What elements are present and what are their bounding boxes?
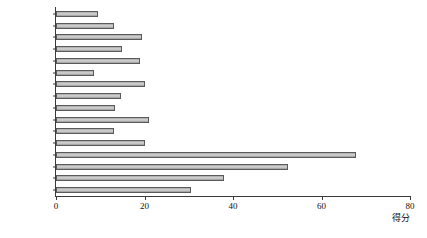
bar-row: 房山区 [56,102,410,114]
bar [56,93,121,99]
bar [56,117,149,123]
bar [56,46,122,52]
bar [56,164,288,170]
x-axis-tick-label: 20 [140,201,149,212]
bar-row: 西城区 [56,173,410,185]
x-axis-tick [410,196,411,200]
x-axis-tick [145,196,146,200]
bar [56,175,224,181]
x-axis-tick-label: 60 [317,201,326,212]
x-axis-tick [233,196,234,200]
x-axis-tick-label: 0 [54,201,59,212]
x-axis-title: 得分 [392,213,410,224]
x-axis-tick [322,196,323,200]
bar-row: 大兴区 [56,114,410,126]
bar-row: 朝阳区 [56,161,410,173]
bar-row: 丰台区 [56,137,410,149]
bar-row: 平谷区 [56,20,410,32]
bar [56,105,115,111]
bar-row: 通州区 [56,8,410,20]
x-axis-tick-label: 80 [406,201,415,212]
bar [56,128,114,134]
bar [56,58,140,64]
bar-row: 海淀区 [56,149,410,161]
bar-chart: 通州区平谷区顺义区密云区怀柔区延庆区昌平区门头沟区房山区大兴区石景山区丰台区海淀… [0,0,427,238]
bar [56,23,114,29]
x-axis-tick [56,196,57,200]
bar-row: 门头沟区 [56,90,410,102]
bar-row: 东城区 [56,184,410,196]
bar-row: 昌平区 [56,79,410,91]
bar-row: 顺义区 [56,32,410,44]
bar [56,140,145,146]
bar [56,11,98,17]
bar-row: 密云区 [56,43,410,55]
bar-row: 延庆区 [56,67,410,79]
plot-area: 通州区平谷区顺义区密云区怀柔区延庆区昌平区门头沟区房山区大兴区石景山区丰台区海淀… [56,8,410,196]
bar [56,81,145,87]
bar [56,34,142,40]
x-axis-tick-label: 40 [229,201,238,212]
bar-row: 怀柔区 [56,55,410,67]
bar-row: 石景山区 [56,126,410,138]
bar [56,152,356,158]
bar [56,70,94,76]
bar [56,187,191,193]
